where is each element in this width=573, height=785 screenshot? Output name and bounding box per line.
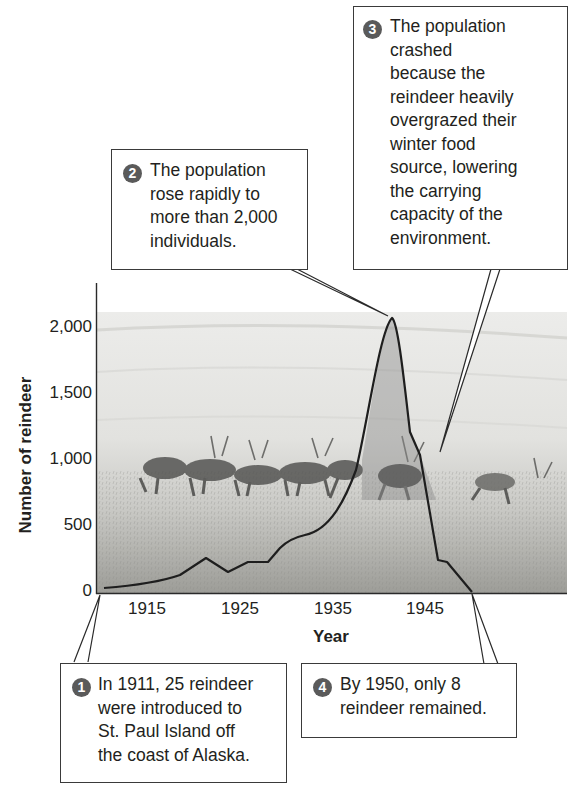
callout-text: The population rose rapidly to more than… xyxy=(150,159,277,253)
y-tick-2000: 2,000 xyxy=(49,317,92,337)
y-axis-ticks: 0 500 1,000 1,500 2,000 xyxy=(0,0,92,600)
callout-text: By 1950, only 8 reindeer remained. xyxy=(340,673,487,720)
y-axis-title: Number of reindeer xyxy=(16,377,36,534)
x-tick-1935: 1935 xyxy=(303,599,363,619)
y-tick-0: 0 xyxy=(83,581,92,601)
x-tick-1945: 1945 xyxy=(395,599,455,619)
y-tick-1000: 1,000 xyxy=(49,449,92,469)
x-tick-1915: 1915 xyxy=(117,599,177,619)
callout-text: The population crashed because the reind… xyxy=(390,15,517,250)
callout-4-final-count: 4 By 1950, only 8 reindeer remained. xyxy=(301,663,517,738)
callout-2-population-rise: 2 The population rose rapidly to more th… xyxy=(111,149,308,270)
x-tick-1925: 1925 xyxy=(210,599,270,619)
callout-number-badge: 2 xyxy=(123,164,142,183)
callout-text: In 1911, 25 reindeer were introduced to … xyxy=(98,673,253,767)
y-tick-1500: 1,500 xyxy=(49,383,92,403)
x-axis-title: Year xyxy=(313,627,349,647)
callout-3-population-crash: 3 The population crashed because the rei… xyxy=(353,6,568,270)
callout-number-badge: 1 xyxy=(72,678,91,697)
tundra-photo-background xyxy=(97,312,567,593)
callout-number-badge: 3 xyxy=(363,20,382,39)
callout-number-badge: 4 xyxy=(313,678,332,697)
y-tick-500: 500 xyxy=(64,515,92,535)
callout-1-introduction: 1 In 1911, 25 reindeer were introduced t… xyxy=(60,663,287,783)
